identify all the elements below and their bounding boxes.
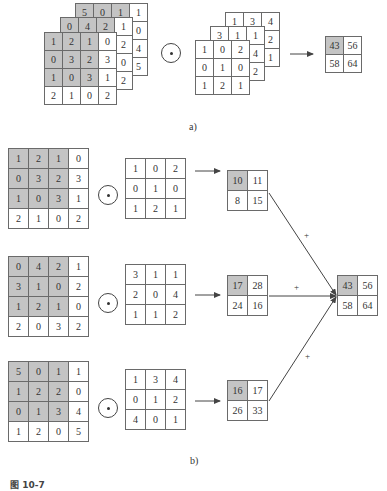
kernel-channel-3: 134 012 401 [125,369,186,430]
cell: 3 [29,169,49,189]
cell: 1 [69,362,89,382]
cell: 1 [9,149,29,169]
convolution-operator-icon [98,185,118,205]
plus-sign: + [294,282,299,292]
convolution-operator-icon [161,43,181,63]
cell: 0 [166,179,186,199]
cell: 4 [166,370,186,390]
cell: 16 [248,296,268,316]
cell: 1 [115,18,133,36]
cell: 4 [166,285,186,305]
cell: 2 [146,199,166,219]
cell: 3 [146,370,166,390]
cell: 2 [9,317,29,337]
cell: 0 [99,33,117,51]
cell: 1 [166,410,186,430]
cell: 58 [326,55,344,73]
cell: 0 [196,59,214,77]
cell: 1 [166,199,186,219]
kernel-channel-2: 311 204 112 [125,264,186,325]
cell: 1 [29,402,49,422]
input-channel-2: 0421 3102 1210 2032 [8,256,89,337]
cell: 16 [228,381,248,401]
cell: 0 [115,54,133,72]
cell: 0 [69,149,89,169]
cell: 1 [69,189,89,209]
cell: 1 [81,33,99,51]
input-channel-1: 1210 0323 1031 2102 [8,148,89,229]
cell: 2 [69,209,89,229]
cell: 0 [63,69,81,87]
cell: 1 [49,297,69,317]
cell: 2 [69,277,89,297]
cell: 2 [81,51,99,69]
cell: 3 [9,277,29,297]
cell: 2 [115,72,133,90]
cell: 2 [126,285,146,305]
cell: 3 [126,265,146,285]
cell: 2 [214,77,232,95]
cell: 5 [69,422,89,442]
cell: 1 [166,265,186,285]
cell: 64 [358,296,378,316]
cell: 1 [9,297,29,317]
cell: 3 [49,402,69,422]
cell: 64 [344,55,362,73]
cell: 26 [228,401,248,421]
cell: 43 [338,276,358,296]
cell: 4 [29,257,49,277]
cell: 1 [126,199,146,219]
cell: 1 [69,257,89,277]
cell: 11 [248,171,268,191]
cell: 2 [49,257,69,277]
cell: 1 [126,305,146,325]
cell: 56 [344,37,362,55]
cell: 2 [99,87,117,105]
cell: 0 [29,362,49,382]
cell: 2 [166,390,186,410]
output-channel-3: 1617 2633 [227,380,268,421]
cell: 1 [126,159,146,179]
cell: 1 [146,265,166,285]
cell: 2 [45,87,63,105]
cell: 0 [49,277,69,297]
cell: 3 [63,51,81,69]
cell: 1 [9,189,29,209]
kernel-layer-front-a: 102 010 121 [195,40,250,95]
cell: 2 [166,305,186,325]
cell: 2 [9,209,29,229]
cell: 1 [29,277,49,297]
cell: 24 [228,296,248,316]
cell: 2 [232,41,250,59]
cell: 56 [358,276,378,296]
cell: 1 [49,149,69,169]
cell: 0 [69,382,89,402]
input-layer-front-a: 1210 0323 1031 2102 [44,32,117,105]
cell: 1 [126,370,146,390]
cell: 33 [248,401,268,421]
cell: 0 [126,390,146,410]
cell: 0 [146,285,166,305]
cell: 2 [69,317,89,337]
cell: 17 [228,276,248,296]
cell: 2 [29,382,49,402]
cell: 0 [29,189,49,209]
cell: 58 [338,296,358,316]
cell: 1 [146,179,166,199]
cell: 1 [196,77,214,95]
cell: 28 [248,276,268,296]
cell: 2 [49,382,69,402]
cell: 0 [146,159,166,179]
plus-sign: + [304,230,309,240]
cell: 0 [214,41,232,59]
cell: 0 [9,402,29,422]
convolution-operator-icon [98,293,118,313]
sum-output: 4356 5864 [337,275,378,316]
cell: 0 [9,257,29,277]
convolution-operator-icon [98,398,118,418]
cell: 5 [9,362,29,382]
cell: 2 [49,169,69,189]
cell: 2 [29,422,49,442]
cell: 2 [29,297,49,317]
cell: 1 [49,362,69,382]
